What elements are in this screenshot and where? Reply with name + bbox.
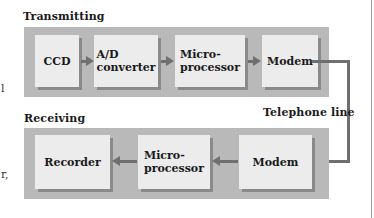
connector-line: [219, 160, 238, 163]
block-label: Modem: [267, 55, 313, 68]
edge-text-fragment: l: [1, 82, 5, 95]
arrow-right-icon: [253, 56, 261, 66]
block-label: CCD: [43, 55, 70, 68]
block-label: Micro- processor: [180, 48, 240, 74]
block-modem-rx: Modem: [239, 135, 312, 189]
receiving-label: Receiving: [24, 112, 85, 125]
block-label: Recorder: [44, 156, 100, 169]
page-border: [371, 0, 372, 218]
connector-line: [119, 160, 137, 163]
transmitting-label: Transmitting: [23, 10, 105, 23]
block-recorder: Recorder: [35, 135, 110, 189]
telephone-line-segment: [312, 60, 350, 63]
edge-text-fragment: r,: [1, 168, 9, 181]
telephone-line-label: Telephone line: [263, 106, 355, 119]
block-label: Micro- processor: [144, 149, 204, 175]
block-ccd: CCD: [35, 35, 79, 87]
arrow-right-icon: [86, 56, 94, 66]
arrow-right-icon: [166, 56, 174, 66]
block-modem-tx: Modem: [262, 35, 318, 87]
block-microprocessor-tx: Micro- processor: [175, 35, 245, 87]
block-label: Modem: [253, 156, 299, 169]
block-microprocessor-rx: Micro- processor: [138, 135, 210, 189]
block-label: A/D converter: [96, 48, 155, 74]
block-ad-converter: A/D converter: [94, 35, 158, 87]
